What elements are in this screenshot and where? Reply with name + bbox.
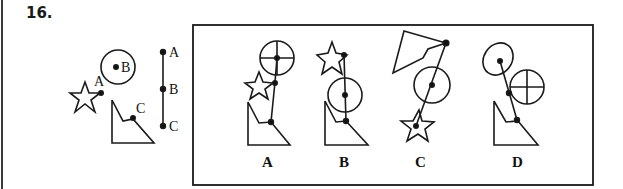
reference-triangle	[112, 100, 154, 143]
point-b-dot	[114, 65, 118, 69]
label-segment-c: C	[169, 119, 178, 134]
segment-point-a	[161, 50, 166, 55]
point-a-dot	[99, 91, 103, 95]
segment-point-c	[161, 124, 166, 129]
option-b-figure[interactable]	[317, 42, 368, 145]
option-a-figure[interactable]	[245, 41, 294, 145]
label-triangle-c: C	[136, 101, 145, 116]
label-circle-b: B	[121, 60, 130, 75]
label-segment-b: B	[169, 82, 178, 97]
option-a-label[interactable]: A	[262, 154, 273, 170]
segment-point-b	[161, 87, 166, 92]
option-c-figure[interactable]	[393, 31, 450, 141]
figure-canvas: A B C A B C A B C D	[0, 0, 623, 189]
reference-figure	[70, 50, 165, 143]
label-star-a: A	[94, 74, 105, 89]
options-box	[193, 25, 593, 185]
option-c-label[interactable]: C	[415, 154, 426, 170]
option-d-figure[interactable]	[477, 37, 544, 145]
option-d-label[interactable]: D	[512, 154, 523, 170]
point-c-dot	[131, 116, 135, 120]
label-segment-a: A	[169, 45, 180, 60]
option-b-label[interactable]: B	[339, 154, 349, 170]
